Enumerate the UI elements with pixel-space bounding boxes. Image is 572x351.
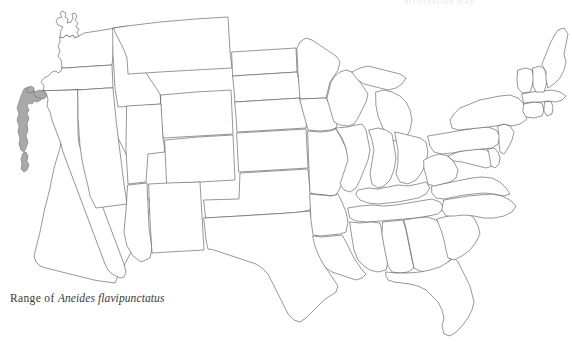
state-south-dakota	[233, 72, 303, 102]
state-new-jersey	[498, 124, 514, 154]
range-polygon-southern-strip	[21, 152, 29, 172]
caption-species-name: Aneides flavipunctatus	[58, 292, 165, 304]
state-kentucky	[356, 182, 430, 204]
state-new-mexico	[149, 182, 204, 253]
state-outlines-group	[34, 11, 568, 336]
range-map-page: distribution map	[0, 0, 572, 351]
state-kansas	[237, 129, 308, 172]
state-vermont	[517, 68, 534, 93]
state-colorado	[165, 135, 235, 184]
state-nebraska	[235, 98, 307, 132]
state-utah	[126, 104, 165, 184]
caption-lead-text: Range of	[10, 292, 55, 304]
state-ohio	[395, 132, 428, 184]
state-connecticut	[523, 102, 544, 118]
state-montana	[114, 17, 232, 74]
state-wyoming	[161, 90, 233, 138]
state-arkansas	[310, 194, 348, 236]
state-north-dakota	[232, 48, 297, 76]
state-new-york	[450, 95, 528, 130]
state-washington	[56, 11, 79, 38]
species-range-group	[17, 86, 47, 172]
state-indiana	[369, 128, 396, 188]
state-rhode-island	[544, 101, 553, 116]
state-north-carolina	[442, 194, 516, 218]
figure-caption: Range of Aneides flavipunctatus	[10, 292, 165, 304]
state-maine	[542, 28, 568, 88]
state-oregon	[41, 65, 113, 92]
